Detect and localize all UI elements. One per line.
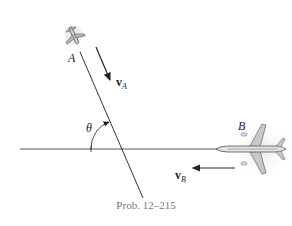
airplane-a-icon [60, 21, 87, 48]
plane-a-label: A [68, 51, 75, 66]
figure-caption: Prob. 12–215 [0, 199, 292, 211]
angle-theta-label: θ [86, 121, 92, 136]
velocity-b-label: vB [175, 168, 186, 184]
velocity-a-label: vA [116, 75, 127, 91]
angle-arc [91, 122, 109, 149]
velocity-b-subscript: B [181, 175, 186, 184]
velocity-a-subscript: A [122, 82, 127, 91]
plane-b-label: B [238, 119, 245, 134]
diagram-canvas [0, 0, 292, 226]
airplane-b-icon [216, 120, 292, 180]
velocity-arrow-a [96, 47, 110, 80]
